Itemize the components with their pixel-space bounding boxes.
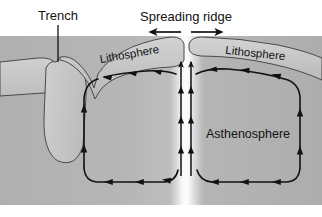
label-spreading-ridge: Spreading ridge (140, 9, 232, 24)
label-trench: Trench (38, 8, 78, 23)
bottom-margin (0, 205, 322, 217)
diagram-canvas: Trench Spreading ridge Lithosphere Litho… (0, 0, 322, 217)
label-asthenosphere: Asthenosphere (206, 127, 290, 141)
subducting-slab (44, 58, 86, 163)
plate-tectonics-diagram: Trench Spreading ridge Lithosphere Litho… (0, 0, 322, 217)
